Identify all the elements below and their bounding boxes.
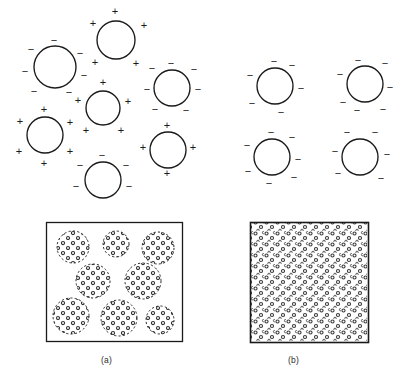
minus-sign: − [335, 167, 341, 179]
minus-sign: − [168, 57, 174, 69]
minus-sign: − [249, 97, 255, 109]
minus-sign: − [298, 82, 304, 94]
panel-b-caption: (b) [288, 355, 299, 365]
minus-sign: − [289, 131, 295, 143]
droplet-positive: +++++ [90, 5, 147, 69]
droplet-negative: −−−−− [73, 149, 132, 198]
minus-sign: − [77, 47, 83, 59]
droplet-outline [257, 68, 293, 104]
minus-sign: − [152, 103, 158, 115]
minus-sign: − [99, 149, 105, 161]
panel-b: −−−−−−−−−−−−−−−−−−−−−−−−−− [244, 54, 393, 343]
aggregate-cluster [53, 298, 89, 334]
plus-sign: + [67, 116, 73, 128]
droplet-positive: ++++++ [16, 103, 73, 169]
minus-sign: − [289, 59, 295, 71]
plus-sign: + [75, 94, 81, 106]
minus-sign: − [378, 172, 384, 184]
droplet-negative: −−−−−−− [144, 57, 201, 116]
droplet-positive: +++++ [75, 76, 131, 136]
aggregate-cluster [76, 264, 110, 298]
minus-sign: − [340, 96, 346, 108]
aggregate-cluster [57, 231, 89, 263]
panel-a-caption: (a) [101, 355, 112, 365]
minus-sign: − [337, 68, 343, 80]
droplet-outline [85, 162, 121, 198]
plus-sign: + [67, 145, 73, 157]
plus-sign: + [164, 167, 170, 179]
droplet-outline [34, 46, 76, 88]
droplet-negative: −−−−−−− [337, 54, 393, 116]
minus-sign: − [51, 34, 57, 46]
aggregate-cluster [142, 232, 174, 264]
plus-sign: + [16, 145, 22, 157]
plus-sign: + [92, 56, 98, 68]
minus-sign: − [77, 159, 83, 171]
minus-sign: − [372, 126, 378, 138]
minus-sign: − [344, 126, 350, 138]
minus-sign: − [126, 180, 132, 192]
minus-sign: − [278, 106, 284, 118]
droplet-outline [347, 66, 383, 102]
panel-a-box [47, 223, 183, 342]
cluster-outline [101, 300, 137, 336]
plus-sign: + [90, 17, 96, 29]
droplet-negative: −−−−−−− [244, 126, 301, 189]
minus-sign: − [191, 63, 197, 75]
minus-sign: − [291, 171, 297, 183]
cluster-outline [57, 231, 89, 263]
cluster-outline [76, 264, 110, 298]
plus-sign: + [83, 124, 89, 136]
minus-sign: − [355, 54, 361, 66]
minus-sign: − [244, 139, 250, 151]
minus-sign: − [380, 103, 386, 115]
minus-sign: − [149, 62, 155, 74]
minus-sign: − [22, 65, 28, 77]
cluster-outline [103, 231, 129, 257]
colloid-charge-figure: −−−−−−−+++++−−−−−−−+++++++++++−−−−−++++ … [0, 0, 408, 382]
plus-sign: + [41, 103, 47, 115]
minus-sign: − [332, 145, 338, 157]
plus-sign: + [140, 141, 146, 153]
minus-sign: − [195, 83, 201, 95]
droplet-negative: −−−−−−− [22, 34, 87, 98]
aggregate-cluster [125, 263, 161, 299]
plus-sign: + [133, 57, 139, 69]
minus-sign: − [295, 153, 301, 165]
cluster-outline [146, 306, 174, 334]
plus-sign: + [17, 115, 23, 127]
droplet-outline [27, 117, 63, 153]
minus-sign: − [144, 83, 150, 95]
droplet-outline [154, 70, 190, 106]
panel-a: −−−−−−−+++++−−−−−−−+++++++++++−−−−−++++ [16, 5, 201, 342]
minus-sign: − [81, 69, 87, 81]
droplet-outline [86, 91, 120, 125]
minus-sign: − [28, 43, 34, 55]
minus-sign: − [271, 55, 277, 67]
minus-sign: − [266, 177, 272, 189]
panel-b-box [251, 223, 369, 343]
minus-sign: − [245, 165, 251, 177]
aggregate-cluster [146, 306, 174, 334]
cluster-outline [53, 298, 89, 334]
minus-sign: − [354, 104, 360, 116]
droplet-outline [254, 139, 290, 175]
figure-canvas: −−−−−−−+++++−−−−−−−+++++++++++−−−−−++++ … [0, 0, 408, 382]
minus-sign: − [387, 81, 393, 93]
aggregate-cluster [103, 231, 129, 257]
panel-b-box-fill [251, 223, 367, 341]
minus-sign: − [384, 148, 390, 160]
plus-sign: + [41, 157, 47, 169]
droplet-negative: −−−−−− [247, 55, 304, 118]
plus-sign: + [141, 19, 147, 31]
droplet-outline [342, 139, 378, 175]
plus-sign: + [100, 76, 106, 88]
plus-sign: + [164, 119, 170, 131]
cluster-outline [142, 232, 174, 264]
plus-sign: + [112, 5, 118, 17]
droplet-negative: −−−−−− [332, 126, 390, 184]
droplet-positive: ++++ [140, 119, 196, 179]
minus-sign: − [382, 57, 388, 69]
plus-sign: + [190, 141, 196, 153]
minus-sign: − [73, 180, 79, 192]
